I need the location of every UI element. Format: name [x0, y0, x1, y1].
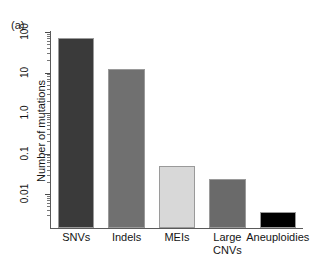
- y-tick-minor: [47, 94, 50, 95]
- y-tick-minor: [47, 166, 50, 167]
- bar-meis[interactable]: [159, 166, 195, 228]
- y-tick-minor: [47, 85, 50, 86]
- bars-layer: [51, 26, 303, 228]
- y-tick-minor: [47, 44, 50, 45]
- y-tick-label: 100: [19, 15, 30, 49]
- y-tick-minor: [47, 101, 50, 102]
- y-tick-label: 0.1: [19, 136, 30, 170]
- y-tick-major: [45, 32, 50, 33]
- y-tick-major: [45, 154, 50, 155]
- y-tick-minor: [47, 122, 50, 123]
- bar-snvs[interactable]: [58, 38, 94, 228]
- y-tick-label: 0.01: [19, 177, 30, 211]
- y-tick-minor: [47, 74, 50, 75]
- y-tick-major: [45, 73, 50, 74]
- y-tick-minor: [47, 210, 50, 211]
- y-tick-minor: [47, 203, 50, 204]
- y-tick-minor: [47, 41, 50, 42]
- y-tick-minor: [47, 89, 50, 90]
- y-tick-minor: [47, 48, 50, 49]
- y-tick-label: 1.0: [19, 96, 30, 130]
- y-tick-minor: [47, 141, 50, 142]
- y-tick-minor: [47, 53, 50, 54]
- y-tick-minor: [47, 60, 50, 61]
- y-tick-minor: [47, 117, 50, 118]
- y-tick-major: [45, 194, 50, 195]
- y-tick-minor: [47, 115, 50, 116]
- y-tick-minor: [47, 119, 50, 120]
- y-tick-minor: [47, 34, 50, 35]
- y-tick-minor: [47, 196, 50, 197]
- y-tick-minor: [47, 134, 50, 135]
- x-axis-label-line: Aneuploidies: [243, 231, 310, 244]
- bar-large-cnvs[interactable]: [209, 179, 245, 228]
- x-axis-label: Aneuploidies: [243, 231, 310, 244]
- y-tick-minor: [47, 200, 50, 201]
- y-tick-minor: [47, 162, 50, 163]
- y-tick-minor: [47, 157, 50, 158]
- y-tick-minor: [47, 215, 50, 216]
- y-tick-minor: [47, 76, 50, 77]
- y-tick-label: 10: [19, 55, 30, 89]
- bar-indels[interactable]: [108, 69, 144, 228]
- y-tick-minor: [47, 38, 50, 39]
- x-axis-labels: SNVsIndelsMEIsLargeCNVsAneuploidies: [51, 231, 303, 265]
- bar-aneuploidies[interactable]: [260, 212, 296, 228]
- y-tick-minor: [47, 79, 50, 80]
- y-tick-minor: [47, 170, 50, 171]
- x-axis-spine: [51, 228, 303, 229]
- y-tick-minor: [47, 129, 50, 130]
- y-tick-minor: [47, 155, 50, 156]
- y-tick-minor: [47, 182, 50, 183]
- y-tick-minor: [47, 175, 50, 176]
- y-tick-minor: [47, 198, 50, 199]
- y-tick-minor: [47, 36, 50, 37]
- y-tick-major: [45, 113, 50, 114]
- y-tick-minor: [47, 160, 50, 161]
- y-tick-minor: [47, 81, 50, 82]
- y-tick-minor: [47, 206, 50, 207]
- y-axis-title: Number of mutations: [35, 51, 47, 211]
- y-tick-minor: [47, 125, 50, 126]
- figure-panel-a: (a) Number of mutations 100101.00.10.01 …: [0, 0, 310, 267]
- x-axis-label-line: CNVs: [192, 244, 262, 257]
